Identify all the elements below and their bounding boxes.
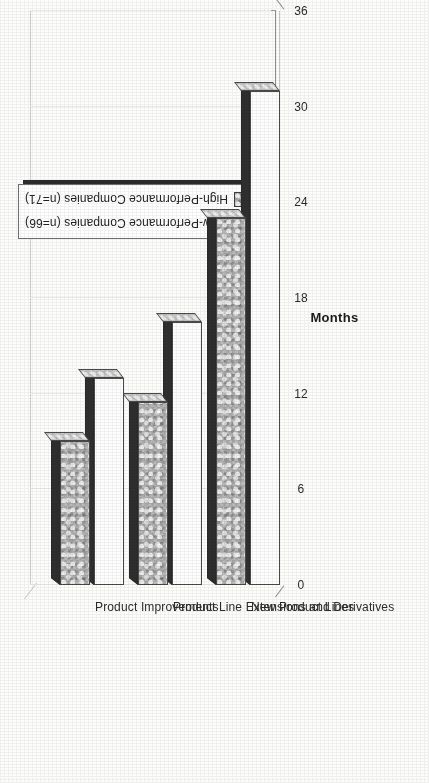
axis-end-edge	[275, 0, 284, 9]
axis-origin-edge	[275, 585, 284, 597]
axis-gridline	[30, 10, 276, 11]
axis-tick-label: 0	[297, 578, 304, 592]
bar-top-face	[51, 434, 60, 585]
bar-top-face	[207, 211, 216, 585]
category-label: New Product Lines	[251, 600, 354, 614]
axis-gridline	[30, 105, 276, 106]
figure-caption-title: Figure 5–2. Time-to-Market Performance b…	[391, 773, 409, 783]
bar-front-face	[94, 377, 124, 584]
legend-item: High-Performance Companies (n=71)	[25, 192, 249, 207]
bar-front-face	[216, 218, 246, 585]
figure-caption-block: Figure 5–2. Time-to-Market Performance b…	[391, 773, 423, 783]
bar-high-performance	[216, 218, 246, 585]
bar-low-performance	[172, 321, 202, 584]
bar-top-face	[129, 394, 138, 584]
axis-tick	[271, 10, 276, 11]
plot-area: 061218243036 Months Product Improvements…	[20, 0, 320, 637]
bar-end-cap	[233, 81, 279, 90]
bar-front-face	[172, 321, 202, 584]
bar-low-performance	[94, 377, 124, 584]
bar-end-cap	[121, 392, 167, 401]
legend-label: High-Performance Companies (n=71)	[25, 192, 228, 206]
axis-title-months: Months	[310, 309, 358, 324]
bar-front-face	[250, 90, 280, 584]
axis-tick-label: 24	[294, 195, 308, 209]
bar-end-cap	[199, 209, 245, 218]
scanned-page: 061218243036 Months Product Improvements…	[0, 0, 429, 783]
axis-tick-label: 30	[294, 99, 308, 113]
bar-front-face	[60, 441, 90, 585]
bar-end-cap	[77, 368, 123, 377]
figure-chart: 061218243036 Months Product Improvements…	[20, 0, 320, 637]
legend-label: Low-Performance Companies (n=66)	[25, 216, 225, 230]
bar-high-performance	[60, 441, 90, 585]
bar-low-performance	[250, 90, 280, 584]
bar-end-cap	[43, 432, 89, 441]
axis-tick-label: 36	[294, 4, 308, 18]
bar-end-cap	[155, 312, 201, 321]
bar-front-face	[138, 401, 168, 584]
bar-high-performance	[138, 401, 168, 584]
axis-tick-label: 18	[294, 291, 308, 305]
axis-tick-label: 12	[294, 386, 308, 400]
figure-source-line: Source: Mercer Management Consulting and…	[411, 773, 423, 783]
axis-tick-label: 6	[297, 482, 304, 496]
